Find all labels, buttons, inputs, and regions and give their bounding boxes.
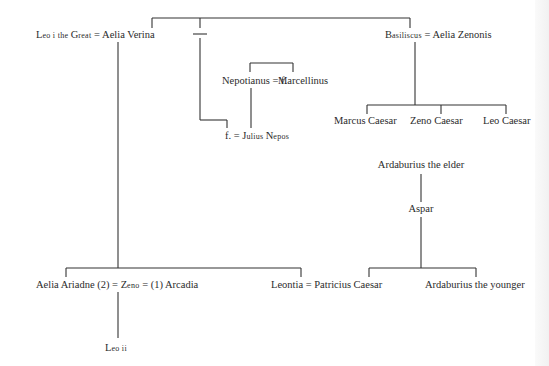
leo-i-label: Leo i the Great = Aelia Verina — [36, 29, 155, 40]
julius-nepos-label: f. = Julius Nepos — [225, 130, 289, 141]
aspar-label: Aspar — [408, 203, 434, 214]
marcus-caesar-label: Marcus Caesar — [334, 115, 397, 126]
leontia-patricius-label: Leontia = Patricius Caesar — [271, 279, 383, 290]
ardaburius-elder-label: Ardaburius the elder — [378, 159, 465, 170]
ariadne-zeno-label: Aelia Ariadne (2) = Zeno = (1) Arcadia — [36, 279, 199, 291]
family-tree: Leo i the Great = Aelia Verina Basiliscu… — [0, 0, 549, 366]
leo-caesar-label: Leo Caesar — [483, 115, 531, 126]
ardaburius-younger-label: Ardaburius the younger — [425, 279, 525, 290]
leo-ii-label: Leo ii — [105, 342, 127, 353]
zeno-caesar-label: Zeno Caesar — [410, 115, 463, 126]
basiliscus-label: Basiliscus = Aelia Zenonis — [385, 29, 492, 40]
marcellinus-label: Marcellinus — [278, 75, 328, 86]
